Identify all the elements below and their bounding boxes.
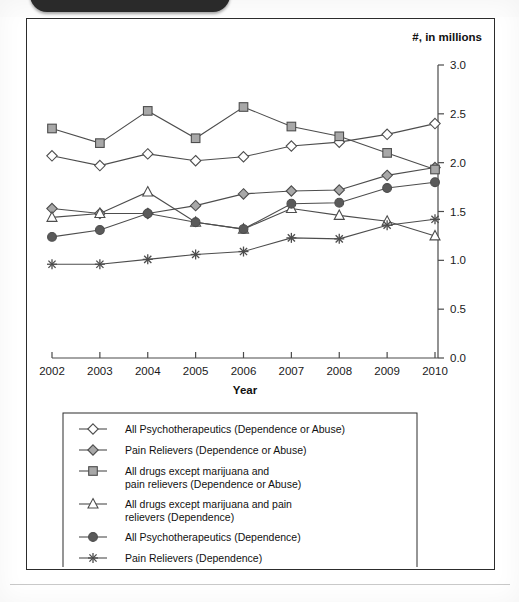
legend-marker-star [88,553,98,563]
x-axis-tick-label: 2002 [39,365,65,377]
data-point-marker [286,186,296,196]
data-point-marker [191,218,200,227]
page-divider [10,584,510,585]
data-point-marker [191,134,200,143]
x-axis-tick-label: 2004 [135,365,161,377]
data-point-marker [47,151,57,161]
x-axis-tick-label: 2008 [326,365,352,377]
data-point-marker [143,254,153,264]
data-point-marker [238,189,248,199]
legend-item-label: Pain Relievers (Dependence or Abuse) [125,444,307,456]
legend-item-label: All Psychotherapeutics (Dependence or Ab… [125,423,345,435]
data-point-marker [286,233,296,243]
data-point-marker [334,234,344,244]
data-point-marker [287,122,296,131]
data-point-marker [95,259,105,269]
data-point-marker [382,129,392,139]
x-axis-tick-label: 2007 [279,365,305,377]
data-point-marker [334,185,344,195]
data-point-marker [286,141,296,151]
legend-item-label: Pain Relievers (Dependence) [125,552,262,564]
x-axis-tick-label: 2005 [183,365,209,377]
window-top-strip [0,0,519,17]
data-point-marker [239,225,248,234]
y-axis-tick-label: 1.5 [450,206,466,218]
legend-marker-filled-circle [89,533,98,542]
data-point-marker [430,214,440,224]
legend-item-label: All Psychotherapeutics (Dependence) [125,531,301,543]
data-point-marker [383,184,392,193]
legend-marker-open-square [89,467,98,476]
data-point-marker [382,220,392,230]
y-axis-tick-label: 0.5 [450,303,466,315]
y-axis-tick-label: 2.0 [450,157,466,169]
data-point-marker [143,187,153,196]
data-point-marker [335,132,344,141]
data-point-marker [383,149,392,158]
data-point-marker [190,200,200,210]
data-point-marker [431,165,440,174]
line-chart: #, in millions0.00.51.01.52.02.53.020022… [27,19,492,567]
data-point-marker [239,103,248,112]
x-axis-tick-label: 2009 [374,365,400,377]
data-point-marker [431,178,440,187]
data-point-marker [95,226,104,235]
data-point-marker [143,149,153,159]
x-axis-tick-label: 2006 [231,365,257,377]
dark-rounded-header-bar [30,0,230,12]
legend-box [63,413,417,567]
y-axis-tick-label: 3.0 [450,59,466,71]
data-point-marker [238,152,248,162]
legend-item-label: All drugs except marijuana and [125,465,269,477]
y-axis-tick-label: 0.0 [450,352,466,364]
y-axis-tick-label: 1.0 [450,254,466,266]
data-point-marker [143,107,152,116]
legend-item-label-line2: pain relievers (Dependence or Abuse) [125,478,301,490]
data-point-marker [335,198,344,207]
data-point-marker [190,156,200,166]
x-axis-tick-label: 2003 [87,365,113,377]
x-axis-tick-label: 2010 [422,365,448,377]
legend-item-label-line2: relievers (Dependence) [125,511,234,523]
figure-frame: #, in millions0.00.51.01.52.02.53.020022… [26,18,495,570]
data-point-marker [430,118,440,128]
y-axis-tick-label: 2.5 [450,108,466,120]
data-point-marker [47,259,57,269]
chart-unit-label: #, in millions [412,31,482,43]
data-point-marker [239,247,249,257]
data-point-marker [95,160,105,170]
data-point-marker [287,199,296,208]
data-point-marker [96,139,105,148]
legend-item-label: All drugs except marijuana and pain [125,498,292,510]
data-point-marker [191,249,201,259]
data-point-marker [382,170,392,180]
data-point-marker [48,124,57,133]
data-point-marker [143,209,152,218]
x-axis-title: Year [233,384,258,396]
data-point-marker [48,232,57,241]
